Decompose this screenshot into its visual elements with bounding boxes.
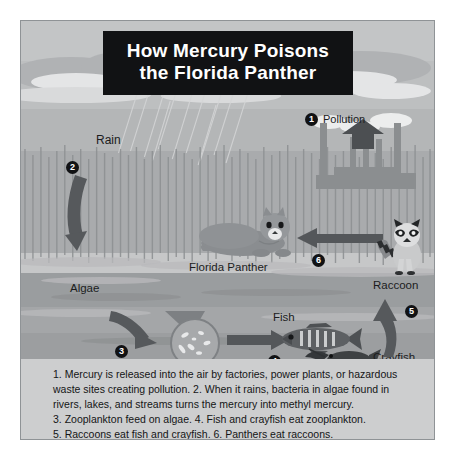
factory-building [334,167,396,189]
zooplankton-magnifier-icon [161,309,229,359]
factory-building [392,173,416,189]
arrow-up-curved-icon [365,297,409,359]
water-ripple [41,277,161,284]
factory-building [316,175,338,189]
caption-panel: 1. Mercury is released into the air by f… [21,359,434,440]
label-florida-panther: Florida Panther [189,261,268,274]
smokestack [320,123,327,181]
arrow-left-icon [297,227,383,249]
scene: 1 Pollution Rain 2 Florida Panther [21,21,434,359]
label-algae: Algae [70,282,99,295]
badge-pollution: 1 [305,113,318,126]
raccoon-icon [377,219,429,275]
caption-line-5: 5. Raccoons eat fish and crayfish. 6. Pa… [53,427,408,440]
title-line-2: the Florida Panther [109,62,347,84]
water-ripple [201,289,351,296]
poster-title: How Mercury Poisons the Florida Panther [103,31,353,95]
label-rain: Rain [96,134,121,147]
badge-algae-to-zooplankton: 3 [115,345,128,358]
arrow-down-curved-icon [61,173,111,253]
label-pollution: Pollution [323,113,365,125]
title-line-1: How Mercury Poisons [109,40,347,62]
factory-icon [310,113,418,195]
badge-fish-to-raccoon: 5 [405,305,418,318]
badge-raccoon-to-panther: 6 [312,254,325,267]
caption-line-4: 3. Zooplankton feed on algae. 4. Fish an… [53,412,408,427]
panther-icon [199,203,311,259]
caption-line-2: waste sites creating pollution. 2. When … [53,382,408,397]
caption-line-1: 1. Mercury is released into the air by f… [53,367,408,382]
label-fish: Fish [273,311,295,324]
label-raccoon: Raccoon [373,279,418,292]
infographic-poster: 1 Pollution Rain 2 Florida Panther [20,20,435,440]
caption-line-3: rivers, lakes, and streams turns the mer… [53,397,408,412]
